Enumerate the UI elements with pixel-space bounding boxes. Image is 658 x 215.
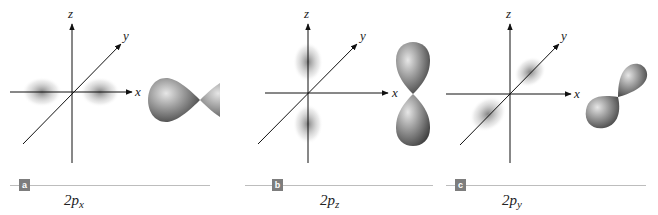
panel-tag: a <box>19 179 30 191</box>
panel-tag: c <box>455 179 466 191</box>
panel-caption: 2pz <box>320 192 339 210</box>
y-axis-label: y <box>561 28 567 44</box>
panel-divider <box>446 185 646 186</box>
z-axis-label: z <box>68 6 73 22</box>
z-axis-label: z <box>304 6 309 22</box>
panel-2pz: z y x b 2pz <box>220 0 438 215</box>
panel-2px: z y x a 2px <box>0 0 220 215</box>
orbital-diagram-2px <box>0 0 220 215</box>
orbital-diagram-2py <box>438 0 658 215</box>
orbital-lobes-z <box>396 42 430 146</box>
electron-cloud-back <box>508 50 552 93</box>
electron-cloud-front <box>462 89 513 139</box>
orbital-diagram-2pz <box>220 0 438 215</box>
y-axis-label: y <box>123 28 129 44</box>
orbital-lobes-y <box>586 64 647 129</box>
x-axis-label: x <box>135 84 141 100</box>
orbital-lobes-x <box>148 78 220 122</box>
y-axis-label: y <box>360 28 366 44</box>
panel-caption: 2py <box>502 192 522 210</box>
z-axis-label: z <box>506 6 511 22</box>
panel-divider <box>10 185 210 186</box>
x-axis-label: x <box>392 85 398 101</box>
panel-2py: z y x c 2py <box>438 0 658 215</box>
panel-caption: 2px <box>64 192 84 210</box>
panel-tag: b <box>272 179 283 191</box>
x-axis-label: x <box>574 86 580 102</box>
